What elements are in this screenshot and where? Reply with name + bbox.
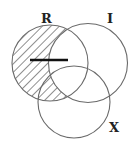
label-x: X (109, 120, 120, 135)
label-i: I (107, 11, 113, 26)
label-r: R (41, 11, 52, 26)
venn-diagram: R I X (0, 0, 136, 148)
